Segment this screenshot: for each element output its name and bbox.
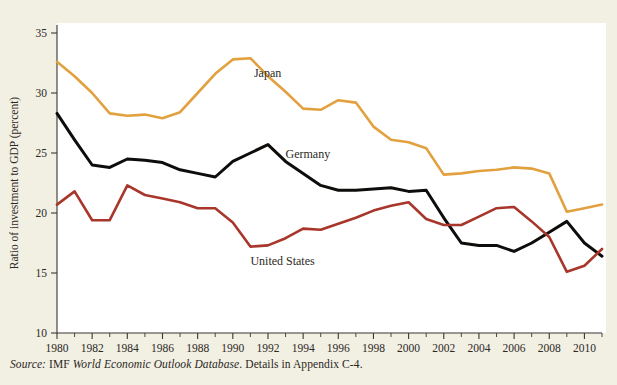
y-tick-label: 20 [36,207,48,219]
x-tick-label: 2004 [467,342,490,354]
y-tick-label: 25 [36,147,48,159]
x-tick-label: 1996 [327,342,350,354]
x-tick-label: 1992 [256,342,279,354]
x-tick-label: 1994 [292,342,315,354]
x-tick-label: 1988 [186,342,209,354]
x-tick-label: 2006 [503,342,526,354]
source-title: World Economic Outlook Database [73,358,240,370]
x-tick-label: 1990 [221,342,244,354]
y-tick-label: 15 [36,267,48,279]
chart-canvas: 101520253035Ratio of investment to GDP (… [0,10,617,355]
x-tick-label: 1998 [362,342,385,354]
y-tick-label: 35 [36,27,48,39]
x-tick-label: 2010 [573,342,596,354]
x-tick-label: 2008 [538,342,561,354]
source-agency: IMF [46,358,73,370]
series-label-japan: Japan [254,66,281,80]
x-tick-label: 2002 [432,342,455,354]
x-tick-label: 1982 [81,342,104,354]
x-tick-label: 1986 [151,342,174,354]
plot-background [57,23,606,333]
y-axis-title: Ratio of investment to GDP (percent) [8,97,21,270]
x-tick-label: 1984 [116,342,139,354]
figure-investment-gdp: 101520253035Ratio of investment to GDP (… [0,0,617,385]
source-label: Source: [10,358,46,370]
x-tick-label: 1980 [46,342,69,354]
source-note: Source: IMF World Economic Outlook Datab… [10,358,363,370]
series-label-united-states: United States [250,254,315,268]
source-tail: . Details in Appendix C-4. [239,358,362,370]
x-tick-label: 2000 [397,342,420,354]
series-label-germany: Germany [286,147,331,161]
y-tick-label: 10 [36,327,48,339]
y-tick-label: 30 [36,87,48,99]
